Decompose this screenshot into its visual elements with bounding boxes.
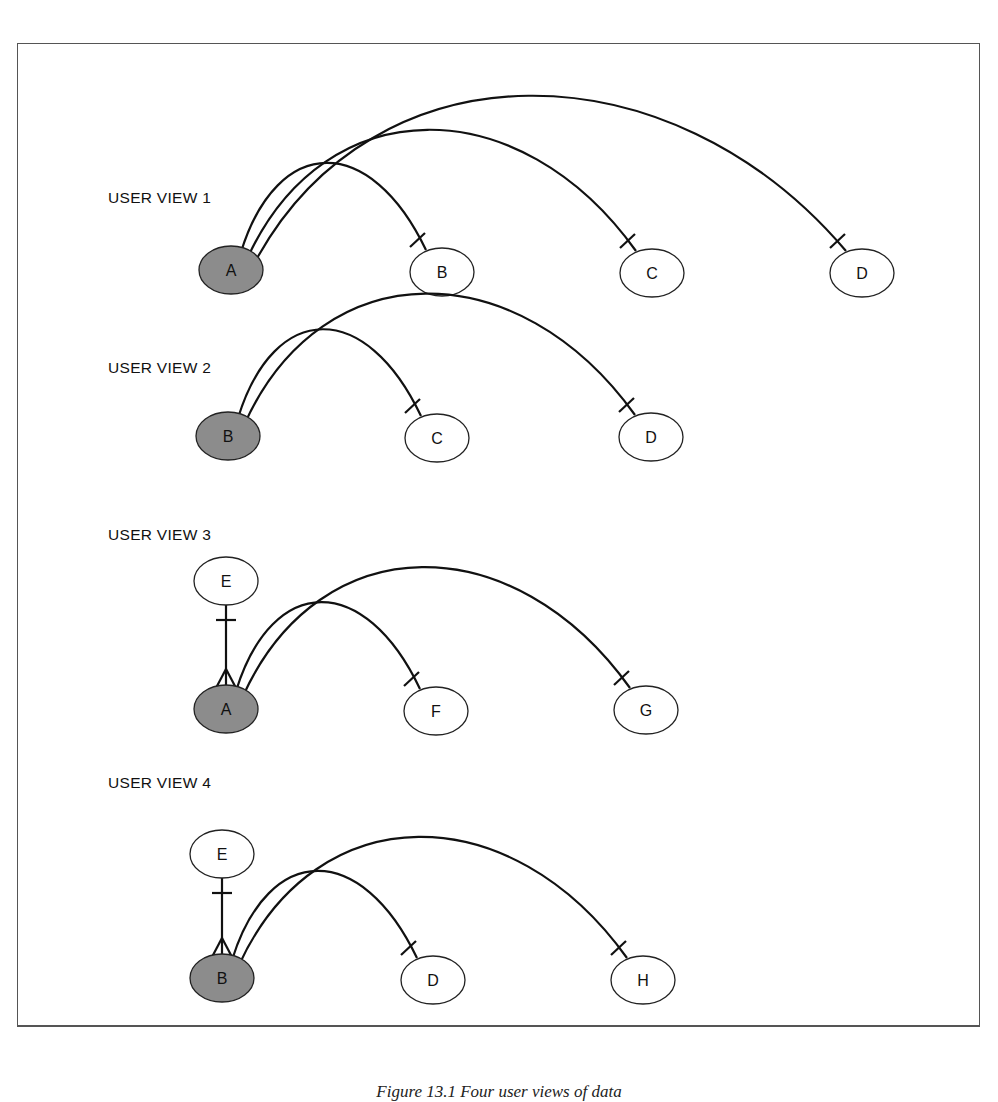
entity-b-root: B xyxy=(190,954,254,1002)
entity-e: E xyxy=(194,557,258,605)
entity-b: B xyxy=(410,248,474,296)
view-title: USER VIEW 3 xyxy=(108,526,211,544)
user-view-2: BCD xyxy=(196,294,683,462)
entity-a-root: A xyxy=(194,685,258,733)
entity-f: F xyxy=(404,687,468,735)
entity-d: D xyxy=(830,249,894,297)
entity-label: C xyxy=(646,265,658,282)
entity-d: D xyxy=(619,413,683,461)
figure-caption: Figure 13.1 Four user views of data xyxy=(0,1082,998,1102)
user-view-1: ABCD xyxy=(199,96,894,297)
entity-label: A xyxy=(226,262,237,279)
user-view-4: EBDH xyxy=(190,830,675,1004)
entity-label: H xyxy=(637,972,649,989)
entity-label: C xyxy=(431,430,443,447)
entity-e: E xyxy=(190,830,254,878)
view-title: USER VIEW 2 xyxy=(108,359,211,377)
relationship-line xyxy=(232,871,417,960)
relationship-line xyxy=(255,96,846,262)
entity-c: C xyxy=(620,249,684,297)
entity-label: E xyxy=(217,846,228,863)
user-view-3: EAFG xyxy=(194,557,678,735)
entity-label: E xyxy=(221,573,232,590)
entity-a-root: A xyxy=(199,246,263,294)
relationship-line xyxy=(236,602,420,691)
view-title: USER VIEW 4 xyxy=(108,774,211,792)
entity-h: H xyxy=(611,956,675,1004)
entity-label: A xyxy=(221,701,232,718)
entity-g: G xyxy=(614,686,678,734)
entity-c: C xyxy=(405,414,469,462)
entity-label: B xyxy=(223,428,234,445)
relationship-line xyxy=(248,130,636,257)
entity-d: D xyxy=(401,956,465,1004)
relationship-line xyxy=(245,294,635,423)
entity-b-root: B xyxy=(196,412,260,460)
entity-label: B xyxy=(217,970,228,987)
relationship-line xyxy=(238,329,421,418)
entity-label: G xyxy=(640,702,652,719)
entity-label: D xyxy=(856,265,868,282)
relationship-line xyxy=(239,837,627,965)
entity-label: D xyxy=(645,429,657,446)
entity-label: F xyxy=(431,703,441,720)
entity-label: D xyxy=(427,972,439,989)
view-title: USER VIEW 1 xyxy=(108,189,211,207)
entity-label: B xyxy=(437,264,448,281)
relationship-line xyxy=(243,567,630,696)
